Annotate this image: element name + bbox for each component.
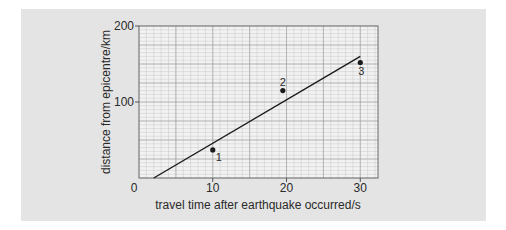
x-axis-label: travel time after earthquake occurred/s (155, 198, 360, 212)
y-tick-label-200: 200 (114, 19, 134, 33)
y-axis-label: distance from epicentre/km (99, 30, 113, 174)
x-tick-label-10: 10 (206, 181, 220, 195)
point-label-2: 2 (280, 76, 286, 88)
data-point-2 (280, 88, 285, 93)
point-label-3: 3 (358, 65, 364, 77)
data-point-3 (358, 60, 363, 65)
x-tick-label-20: 20 (280, 181, 294, 195)
scatter-chart: 0 200 100 10 20 30 travel time after ear… (0, 0, 506, 230)
x-tick-label-30: 30 (354, 181, 368, 195)
point-label-1: 1 (216, 151, 222, 163)
y-tick-label-100: 100 (114, 95, 134, 109)
origin-label: 0 (131, 181, 138, 195)
data-point-1 (210, 147, 215, 152)
